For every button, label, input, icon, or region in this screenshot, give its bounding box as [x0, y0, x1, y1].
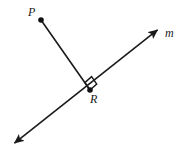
point-p-dot — [38, 17, 44, 23]
geometry-canvas — [0, 0, 184, 158]
point-p-label: P — [28, 6, 35, 18]
geometry-figure: P R m — [0, 0, 184, 158]
point-r-label: R — [90, 93, 97, 105]
segment-pr — [41, 20, 90, 90]
line-m-label: m — [165, 27, 174, 39]
line-m — [15, 30, 158, 143]
